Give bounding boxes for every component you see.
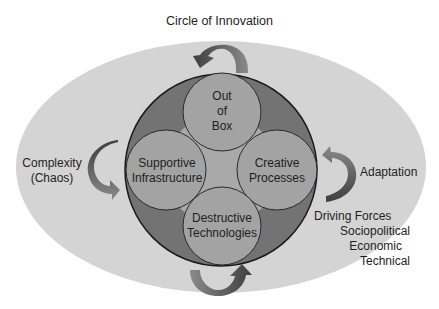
label-line: Sociopolitical — [310, 224, 410, 239]
label-creative-processes: Creative Processes — [237, 156, 317, 186]
label-line: Processes — [237, 171, 317, 186]
label-line: Creative — [237, 156, 317, 171]
label-line: Driving Forces — [314, 209, 410, 224]
label-line: Complexity — [14, 156, 90, 171]
label-line: Infrastructure — [126, 171, 208, 186]
label-line: Destructive — [182, 211, 262, 226]
label-out-of-box: Out of Box — [192, 89, 252, 134]
label-line: Supportive — [126, 156, 208, 171]
label-adaptation: Adaptation — [360, 165, 417, 179]
label-driving-forces: Driving Forces Sociopolitical Economic T… — [310, 209, 410, 269]
label-line: Economic — [310, 239, 402, 254]
label-line: (Chaos) — [14, 171, 90, 186]
label-line: Technical — [310, 254, 410, 269]
label-complexity: Complexity (Chaos) — [14, 156, 90, 186]
label-line: of — [192, 104, 252, 119]
label-destructive-technologies: Destructive Technologies — [182, 211, 262, 241]
label-line: Technologies — [182, 226, 262, 241]
label-supportive-infrastructure: Supportive Infrastructure — [126, 156, 208, 186]
label-line: Box — [192, 119, 252, 134]
diagram-title: Circle of Innovation — [0, 14, 439, 28]
label-line: Out — [192, 89, 252, 104]
